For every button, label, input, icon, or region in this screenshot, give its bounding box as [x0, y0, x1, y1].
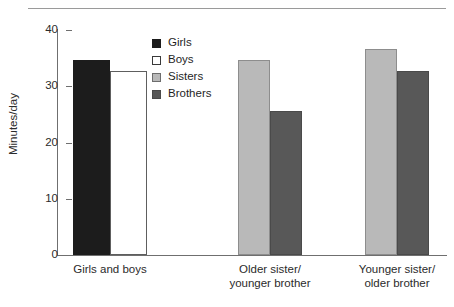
legend-swatch-sisters-icon: [152, 73, 161, 82]
bar-brothers-group3: [397, 71, 429, 255]
legend-label-brothers: Brothers: [168, 88, 211, 100]
legend-swatch-girls-icon: [152, 39, 161, 48]
y-tick-label-0: 0: [32, 249, 58, 261]
y-axis-title: Minutes/day: [7, 64, 19, 184]
y-tick-label-20: 20: [32, 137, 58, 149]
x-category-label-2: Older sister/ younger brother: [210, 263, 330, 290]
x-category-label-3-line2: older brother: [337, 277, 454, 291]
legend-swatch-brothers-icon: [152, 90, 161, 99]
top-divider-rule: [28, 8, 446, 9]
y-tick-10: 10: [14, 199, 58, 200]
y-tick-20: 20: [14, 143, 58, 144]
x-axis-line: [57, 255, 447, 256]
legend-label-sisters: Sisters: [168, 71, 203, 83]
legend-item-sisters: Sisters: [152, 70, 211, 84]
x-category-label-3: Younger sister/ older brother: [337, 263, 454, 290]
x-category-label-2-line2: younger brother: [210, 277, 330, 291]
bar-girls-group1: [73, 60, 110, 255]
bar-sisters-group2: [238, 60, 270, 255]
x-category-label-3-line1: Younger sister/: [337, 263, 454, 277]
x-category-label-1: Girls and boys: [50, 263, 170, 277]
bar-boys-group1: [110, 71, 147, 255]
y-tick-0: 0: [14, 255, 58, 256]
bar-brothers-group2: [270, 111, 302, 255]
legend-item-boys: Boys: [152, 53, 211, 67]
bar-chart-figure: 40 30 20 10 0 Minutes/day Girls and boys…: [0, 0, 454, 307]
legend-label-boys: Boys: [168, 54, 194, 66]
y-tick-label-40: 40: [32, 24, 58, 36]
x-category-label-1-line1: Girls and boys: [50, 263, 170, 277]
legend-swatch-boys-icon: [152, 56, 161, 65]
legend-label-girls: Girls: [168, 37, 192, 49]
x-category-label-2-line1: Older sister/: [210, 263, 330, 277]
legend-item-girls: Girls: [152, 36, 211, 50]
y-tick-label-10: 10: [32, 193, 58, 205]
y-tick-40: 40: [14, 30, 58, 31]
bar-sisters-group3: [365, 49, 397, 255]
y-tick-30: 30: [14, 86, 58, 87]
y-tick-label-30: 30: [32, 80, 58, 92]
legend-item-brothers: Brothers: [152, 87, 211, 101]
chart-legend: Girls Boys Sisters Brothers: [152, 36, 211, 104]
